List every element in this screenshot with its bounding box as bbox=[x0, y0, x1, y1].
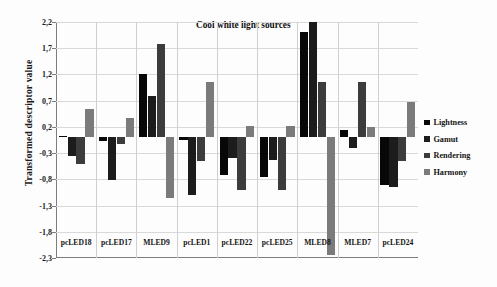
gridline bbox=[56, 206, 418, 207]
bar bbox=[68, 137, 76, 155]
bar bbox=[228, 137, 236, 158]
bar bbox=[246, 126, 254, 137]
category-separator bbox=[96, 22, 97, 258]
bar bbox=[349, 137, 357, 147]
bar bbox=[85, 109, 93, 138]
x-tick-label: pcLED24 bbox=[382, 238, 413, 247]
y-tick-mark bbox=[52, 101, 56, 102]
y-tick-mark bbox=[52, 179, 56, 180]
legend-label: Rendering bbox=[434, 151, 471, 160]
y-tick-mark bbox=[52, 206, 56, 207]
gridline bbox=[56, 48, 418, 49]
y-tick-mark bbox=[52, 153, 56, 154]
y-tick-mark bbox=[52, 74, 56, 75]
bar bbox=[126, 118, 134, 137]
y-tick-label: -0,3 bbox=[39, 149, 52, 158]
y-tick-mark bbox=[52, 232, 56, 233]
legend-item-lightness: Lightness bbox=[424, 118, 470, 127]
legend-swatch-icon bbox=[424, 169, 430, 175]
bar bbox=[358, 82, 366, 137]
legend: Lightness Gamut Rendering Harmony bbox=[424, 118, 470, 184]
gridline bbox=[56, 232, 418, 233]
bar bbox=[157, 44, 165, 137]
bar bbox=[398, 137, 406, 161]
category-separator bbox=[257, 22, 258, 258]
x-tick-label: MLED7 bbox=[344, 238, 371, 247]
y-tick-label: 0,2 bbox=[42, 122, 52, 131]
bar bbox=[76, 137, 84, 163]
bar bbox=[108, 137, 116, 180]
y-tick-label: 2,2 bbox=[42, 18, 52, 27]
bar bbox=[139, 74, 147, 137]
x-tick-label: pcLED17 bbox=[101, 238, 132, 247]
x-tick-label: pcLED25 bbox=[262, 238, 293, 247]
bar bbox=[59, 136, 67, 138]
y-tick-mark bbox=[52, 258, 56, 259]
bar bbox=[318, 82, 326, 137]
y-axis-title: Transformed descriptor value bbox=[24, 28, 34, 218]
bar bbox=[340, 130, 348, 138]
y-tick-label: 0,7 bbox=[42, 96, 52, 105]
bar bbox=[197, 137, 205, 161]
gridline bbox=[56, 22, 418, 23]
bar bbox=[260, 137, 268, 176]
plot-area: 2,21,71,20,70,2-0,3-0,8-1,3-1,8-2,3 bbox=[56, 22, 418, 258]
bar bbox=[188, 137, 196, 195]
category-separator bbox=[338, 22, 339, 258]
category-separator bbox=[217, 22, 218, 258]
bar bbox=[117, 137, 125, 143]
bar-chart: Transformed descriptor value Cool white … bbox=[0, 0, 497, 287]
category-separator bbox=[136, 22, 137, 258]
y-tick-label: -2,3 bbox=[39, 254, 52, 263]
bar bbox=[220, 137, 228, 175]
bar bbox=[300, 32, 308, 137]
y-tick-label: -1,3 bbox=[39, 201, 52, 210]
y-tick-mark bbox=[52, 22, 56, 23]
bar bbox=[166, 137, 174, 197]
bar bbox=[389, 137, 397, 187]
legend-label: Harmony bbox=[434, 168, 468, 177]
x-tick-label: MLED8 bbox=[304, 238, 331, 247]
bar bbox=[286, 126, 294, 137]
category-separator bbox=[177, 22, 178, 258]
y-tick-mark bbox=[52, 48, 56, 49]
legend-swatch-icon bbox=[424, 136, 430, 142]
x-tick-label: pcLED1 bbox=[183, 238, 210, 247]
x-tick-label: pcLED18 bbox=[61, 238, 92, 247]
x-tick-label: pcLED22 bbox=[222, 238, 253, 247]
y-tick-label: -1,8 bbox=[39, 227, 52, 236]
y-tick-label: -0,8 bbox=[39, 175, 52, 184]
legend-item-harmony: Harmony bbox=[424, 168, 470, 177]
legend-label: Gamut bbox=[434, 135, 459, 144]
legend-item-gamut: Gamut bbox=[424, 135, 470, 144]
x-tick-label: MLED9 bbox=[143, 238, 170, 247]
y-tick-mark bbox=[52, 127, 56, 128]
bar bbox=[179, 137, 187, 140]
legend-swatch-icon bbox=[424, 120, 430, 126]
bar bbox=[380, 137, 388, 184]
category-separator bbox=[297, 22, 298, 258]
bar bbox=[367, 127, 375, 137]
bar bbox=[206, 82, 214, 137]
y-tick-label: 1,2 bbox=[42, 70, 52, 79]
bar bbox=[99, 137, 107, 141]
y-tick-label: 1,7 bbox=[42, 44, 52, 53]
bar bbox=[309, 22, 317, 137]
bar bbox=[269, 137, 277, 160]
bar bbox=[407, 102, 415, 138]
bar bbox=[237, 137, 245, 189]
category-separator bbox=[378, 22, 379, 258]
legend-label: Lightness bbox=[434, 118, 468, 127]
bar bbox=[148, 96, 156, 137]
bar bbox=[278, 137, 286, 189]
legend-item-rendering: Rendering bbox=[424, 151, 470, 160]
legend-swatch-icon bbox=[424, 153, 430, 159]
gridline bbox=[56, 74, 418, 75]
